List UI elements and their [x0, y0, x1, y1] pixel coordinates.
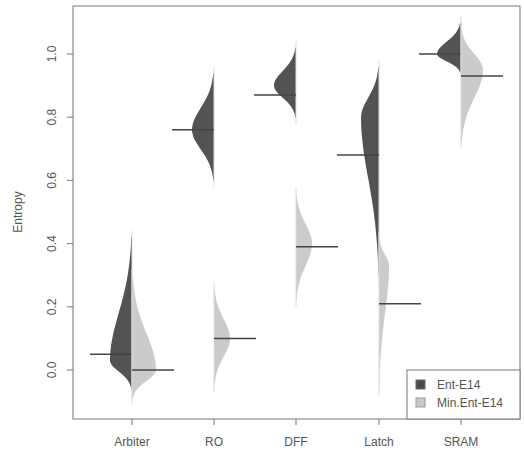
y-axis-label: Entropy [11, 191, 25, 232]
x-tick-label-arbiter: Arbiter [114, 435, 149, 449]
x-tick-label-latch: Latch [364, 435, 393, 449]
violin-left-ro [192, 73, 214, 180]
violin-right-arbiter [132, 275, 156, 398]
y-tick-label: 0.2 [45, 298, 59, 315]
y-tick-label: 0.8 [45, 109, 59, 126]
x-axis: ArbiterRODFFLatchSRAM [114, 419, 478, 449]
violin-left-dff [274, 48, 296, 118]
x-tick-label-sram: SRAM [444, 435, 479, 449]
violin-left-arbiter [110, 237, 132, 389]
y-tick-label: 0.0 [45, 361, 59, 378]
violin-left-latch [361, 67, 379, 276]
y-tick-label: 1.0 [45, 45, 59, 62]
violin-right-latch [379, 237, 389, 389]
legend-label-min-ent-e14: Min.Ent-E14 [437, 396, 503, 410]
x-tick-label-ro: RO [205, 435, 223, 449]
x-tick-label-dff: DFF [284, 435, 307, 449]
legend: Ent-E14 Min.Ent-E14 [407, 370, 520, 419]
legend-swatch-min-ent-e14 [416, 398, 425, 407]
split-violin-chart: 0.00.20.40.60.81.0 ArbiterRODFFLatchSRAM… [0, 0, 524, 453]
legend-label-ent-e14: Ent-E14 [437, 378, 481, 392]
y-axis: 0.00.20.40.60.81.0 [45, 45, 73, 378]
violin-right-ro [214, 288, 230, 386]
y-tick-label: 0.6 [45, 172, 59, 189]
violin-left-sram [437, 22, 461, 73]
y-tick-label: 0.4 [45, 235, 59, 252]
legend-swatch-ent-e14 [416, 380, 425, 389]
plot-area [90, 16, 503, 405]
violin-right-sram [461, 29, 483, 143]
